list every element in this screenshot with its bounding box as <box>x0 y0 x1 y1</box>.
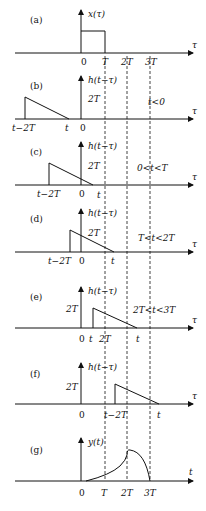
tick-2T: 2T <box>98 334 112 344</box>
rect-pulse <box>81 31 105 53</box>
height-label: 2T <box>87 161 101 171</box>
panel-f: (f) h(t−τ) τ 2T 0 t−2T t <box>15 362 198 420</box>
y-axis-label: x(τ) <box>88 9 106 19</box>
height-label: 2T <box>87 228 101 238</box>
condition-label: t<0 <box>148 97 165 107</box>
panel-tag: (a) <box>30 15 42 25</box>
tick-T: T <box>102 57 109 67</box>
tick-3T: 3T <box>145 57 158 67</box>
y-axis-label: y(t) <box>87 437 104 447</box>
tick-3T: 3T <box>144 488 157 498</box>
flipped-triangle <box>25 97 69 119</box>
tick-t: t <box>136 334 140 344</box>
tick-t-minus-2T: t−2T <box>12 123 36 133</box>
panel-d: (d) h(t−τ) τ 2T T<t<2T t−2T 0 t <box>15 208 198 266</box>
panel-tag: (b) <box>30 81 43 91</box>
tick-t: t <box>65 123 69 133</box>
tick-t-minus-2T: t−2T <box>37 189 61 199</box>
tick-0: 0 <box>79 410 85 420</box>
panel-tag: (d) <box>30 214 43 224</box>
tick-t-minus-2T: t−2T <box>104 410 128 420</box>
tick-T: T <box>101 488 108 498</box>
tick-2T: 2T <box>120 57 134 67</box>
flipped-triangle <box>49 163 93 185</box>
height-label: 2T <box>87 94 101 104</box>
y-axis-label: h(t−τ) <box>88 75 117 85</box>
y-axis-label: h(t−τ) <box>88 362 117 372</box>
x-axis-label: t <box>189 467 193 477</box>
tick-0: 0 <box>79 256 85 266</box>
condition-label: 0<t<T <box>137 163 168 173</box>
x-axis-label: τ <box>192 315 198 325</box>
y-axis-label: h(t−τ) <box>88 208 117 218</box>
x-axis-label: τ <box>192 391 198 401</box>
tick-0: 0 <box>79 334 85 344</box>
panel-g: (g) y(t) t 0 T 2T 3T <box>15 437 193 498</box>
panel-c: (c) h(t−τ) τ 2T 0<t<T t−2T 0 t <box>15 141 198 200</box>
tick-t-minus-2T: t−2T <box>48 256 72 266</box>
output-curve <box>86 450 150 481</box>
tick-0: 0 <box>79 488 85 498</box>
panel-tag: (c) <box>30 147 42 157</box>
tick-t: t <box>157 410 161 420</box>
y-axis-label: h(t−τ) <box>88 286 117 296</box>
tick-0: 0 <box>81 57 87 67</box>
flipped-triangle <box>93 308 137 328</box>
tick-0: 0 <box>79 189 85 199</box>
panel-tag: (g) <box>30 445 43 455</box>
x-axis-label: τ <box>192 40 198 50</box>
tick-t-minus-2T: t <box>89 334 93 344</box>
x-axis-label: τ <box>192 106 198 116</box>
panel-tag: (f) <box>30 369 40 379</box>
tick-0: 0 <box>80 123 86 133</box>
condition-label: 2T<t<3T <box>132 305 176 315</box>
height-label: 2T <box>65 304 79 314</box>
condition-label: T<t<2T <box>138 233 175 243</box>
tick-2T: 2T <box>120 488 134 498</box>
panel-tag: (e) <box>30 292 42 302</box>
height-label: 2T <box>65 382 79 392</box>
flipped-triangle <box>115 384 159 404</box>
convolution-diagram: (a) x(τ) τ 0 T 2T 3T (b) h(t−τ) τ 2T t<0… <box>0 0 206 511</box>
y-axis-label: h(t−τ) <box>88 141 117 151</box>
panel-a: (a) x(τ) τ 0 T 2T 3T <box>15 9 198 67</box>
x-axis-label: τ <box>192 239 198 249</box>
x-axis-label: τ <box>192 172 198 182</box>
tick-t: t <box>97 190 101 200</box>
panel-e: (e) h(t−τ) τ 2T 2T<t<3T 0 t 2T t <box>15 286 198 344</box>
tick-t: t <box>111 256 115 266</box>
